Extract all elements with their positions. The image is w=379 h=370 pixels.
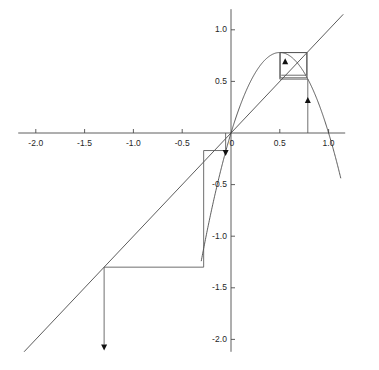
x-tick-label: 1.0 — [321, 139, 336, 148]
x-tick-label-zero: 0 — [230, 139, 235, 148]
plot-canvas — [0, 0, 379, 370]
x-tick-label: -2.0 — [28, 139, 43, 148]
arrowhead-down-lower-left — [101, 345, 107, 351]
y-tick-label: -2.0 — [207, 335, 227, 344]
y-tick-label: -1.5 — [207, 283, 227, 292]
curves-group — [24, 14, 343, 351]
identity-line — [24, 14, 343, 351]
arrowhead-up-upper-cobweb — [282, 58, 288, 64]
y-tick-label: 0.5 — [207, 77, 227, 86]
axes-group — [18, 9, 345, 352]
y-tick-label: 1.0 — [207, 25, 227, 34]
cobweb-orbit-upper — [280, 53, 308, 134]
arrowhead-up-right-vertical — [305, 97, 311, 103]
cobweb-diagram-figure: -2.0-1.5-1.0-0.500.51.01.00.5-0.5-1.0-1.… — [0, 0, 379, 370]
x-tick-label: -0.5 — [175, 139, 190, 148]
arrowheads-group — [101, 58, 311, 350]
arrowhead-down-near-origin — [223, 150, 229, 156]
y-tick-label: -1.0 — [207, 232, 227, 241]
x-tick-label: -1.0 — [126, 139, 141, 148]
y-tick-label: -0.5 — [207, 180, 227, 189]
x-tick-label: 0.5 — [272, 139, 287, 148]
cobweb-group — [104, 53, 308, 345]
x-tick-label: -1.5 — [77, 139, 92, 148]
